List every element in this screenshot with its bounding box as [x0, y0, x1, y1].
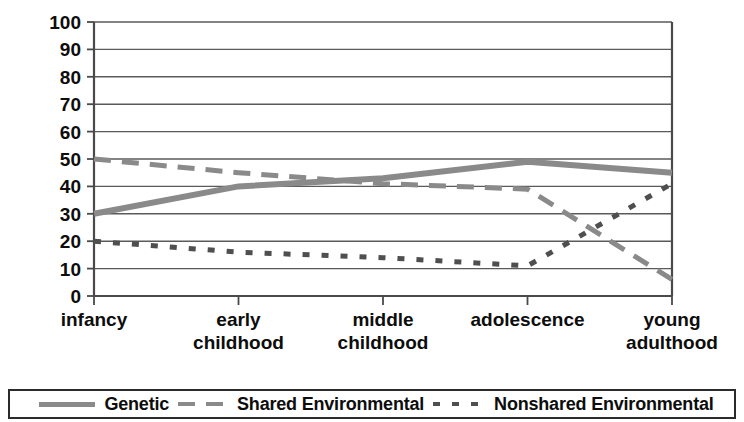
y-tick-label: 100 — [49, 12, 81, 33]
legend-label-genetic: Genetic — [104, 394, 169, 415]
y-tick-label: 60 — [60, 122, 81, 143]
x-tick-label: earlychildhood — [193, 309, 284, 353]
y-tick-label: 0 — [70, 286, 81, 307]
y-tick-label: 70 — [60, 94, 81, 115]
x-tick-label: infancy — [61, 309, 128, 330]
y-axis-tick-labels: 1009080706050403020100 — [49, 12, 81, 307]
y-tick-label: 20 — [60, 231, 81, 252]
chart-figure: 1009080706050403020100 infancyearlychild… — [0, 0, 744, 422]
dashed-line-swatch-icon — [178, 399, 228, 409]
legend-item-shared-environmental: Shared Environmental — [169, 394, 424, 415]
x-axis-tick-labels: infancyearlychildhoodmiddlechildhoodadol… — [61, 309, 718, 353]
chart-legend: Genetic Shared Environmental Nonshared E… — [8, 389, 736, 419]
y-tick-label: 30 — [60, 204, 81, 225]
dotted-line-swatch-icon — [433, 399, 485, 409]
x-tick-label: adolescence — [470, 309, 584, 330]
x-axis-tickmarks — [94, 296, 672, 305]
legend-item-nonshared-environmental: Nonshared Environmental — [424, 394, 713, 415]
legend-label-nonshared-environmental: Nonshared Environmental — [494, 394, 713, 415]
y-tick-label: 50 — [60, 149, 81, 170]
y-tick-label: 10 — [60, 259, 81, 280]
chart-plot-region: 1009080706050403020100 infancyearlychild… — [0, 0, 744, 370]
x-tick-label: middlechildhood — [338, 309, 429, 353]
solid-line-swatch-icon — [39, 399, 95, 409]
y-tick-label: 40 — [60, 176, 81, 197]
gridlines — [94, 22, 672, 296]
legend-item-genetic: Genetic — [30, 394, 169, 415]
legend-label-shared-environmental: Shared Environmental — [237, 394, 424, 415]
line-chart-svg: 1009080706050403020100 infancyearlychild… — [0, 0, 744, 370]
data-series — [94, 159, 672, 280]
x-tick-label: youngadulthood — [626, 309, 718, 353]
y-tick-label: 80 — [60, 67, 81, 88]
y-tick-label: 90 — [60, 39, 81, 60]
